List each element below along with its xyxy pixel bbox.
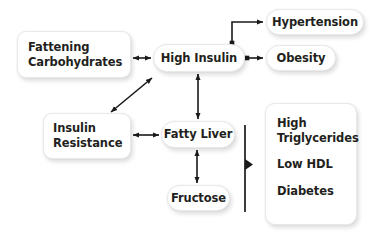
outcome-diabetes-label: Diabetes — [277, 184, 334, 199]
node-outcomes-panel[interactable]: High Triglycerides Low HDL Diabetes — [265, 103, 357, 225]
node-fattening-carbohydrates-line1: Fattening — [28, 40, 89, 55]
outcome-low-hdl-label: Low HDL — [277, 157, 333, 172]
outcome-item-diabetes: Diabetes — [277, 184, 334, 199]
connector-high-insulin-to-hypertension — [232, 22, 263, 43]
node-insulin-resistance[interactable]: Insulin Resistance — [43, 113, 131, 159]
node-fatty-liver-label: Fatty Liver — [164, 127, 233, 142]
node-fatty-liver[interactable]: Fatty Liver — [161, 121, 235, 148]
node-fattening-carbohydrates-line2: Carbohydrates — [28, 55, 122, 70]
node-insulin-resistance-line2: Resistance — [53, 136, 122, 151]
node-obesity[interactable]: Obesity — [266, 45, 336, 71]
outcome-high-triglycerides-line2: Triglycerides — [277, 131, 359, 146]
outcome-item-low-hdl: Low HDL — [277, 157, 333, 172]
connector-insulin-resistance-to-high-insulin — [111, 78, 152, 112]
node-fructose[interactable]: Fructose — [167, 185, 230, 211]
node-hypertension-label: Hypertension — [272, 15, 358, 30]
node-fructose-label: Fructose — [171, 191, 226, 206]
node-hypertension[interactable]: Hypertension — [266, 9, 364, 35]
node-fattening-carbohydrates[interactable]: Fattening Carbohydrates — [17, 31, 131, 78]
node-high-insulin-label: High Insulin — [161, 51, 237, 66]
diagram-canvas: Fattening Carbohydrates High Insulin Hyp… — [0, 0, 381, 239]
outcome-item-high-triglycerides: High Triglycerides — [277, 116, 359, 145]
node-obesity-label: Obesity — [277, 51, 326, 66]
node-high-insulin[interactable]: High Insulin — [153, 44, 245, 72]
outcome-high-triglycerides-line1: High — [277, 116, 359, 131]
node-insulin-resistance-line1: Insulin — [53, 121, 96, 136]
outcomes-pointer-triangle — [245, 159, 253, 170]
